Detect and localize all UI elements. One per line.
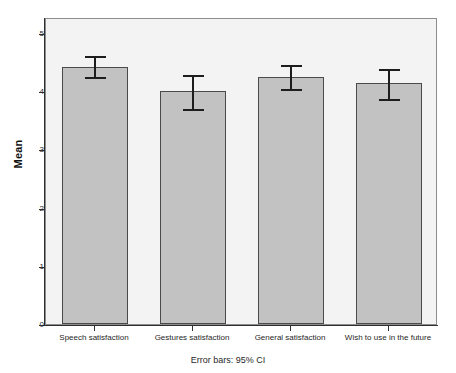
error-bar-cap-lower (183, 109, 204, 111)
y-axis-title: Mean (12, 130, 24, 178)
error-bar-cap-upper (183, 75, 204, 77)
error-bar-cap-upper (379, 69, 400, 71)
bar (258, 77, 324, 324)
y-axis-tick-label: 2 (24, 205, 44, 213)
y-axis-tick-label: 4 (24, 88, 44, 96)
error-bar-cap-lower (85, 77, 106, 79)
error-bar-line (388, 69, 390, 101)
error-bar-footnote: Error bars: 95% CI (0, 355, 456, 365)
x-axis-tick-label: General satisfaction (241, 333, 339, 343)
y-axis-tick-label: 1 (24, 263, 44, 271)
x-axis-tick (192, 326, 193, 331)
y-axis-tick-label: 5 (24, 30, 44, 38)
x-axis-tick (290, 326, 291, 331)
x-axis-tick (388, 326, 389, 331)
error-bar (62, 56, 128, 79)
x-axis-line (44, 325, 438, 326)
plot-inner (46, 19, 436, 324)
bar (62, 67, 128, 324)
y-axis-line (44, 18, 45, 326)
error-bar-line (94, 56, 96, 79)
error-bar-cap-lower (281, 89, 302, 91)
error-bar (160, 75, 226, 111)
y-axis-tick-label: 0 (24, 321, 44, 329)
plot-area (45, 18, 437, 325)
error-bar-line (192, 75, 194, 111)
error-bar-cap-upper (281, 65, 302, 67)
error-bar-line (290, 65, 292, 91)
error-bar (258, 65, 324, 91)
y-axis-tick-label: 3 (24, 146, 44, 154)
bar (160, 91, 226, 324)
x-axis-tick-label: Gestures satisfaction (143, 333, 241, 343)
x-axis-tick-label: Speech satisfaction (45, 333, 143, 343)
error-bar (356, 69, 422, 101)
error-bar-cap-lower (379, 99, 400, 101)
bar (356, 83, 422, 324)
x-axis-tick (94, 326, 95, 331)
error-bar-cap-upper (85, 56, 106, 58)
bar-chart: Mean Error bars: 95% CI 012345Speech sat… (0, 0, 456, 373)
x-axis-tick-label: Wish to use in the future (339, 333, 437, 343)
